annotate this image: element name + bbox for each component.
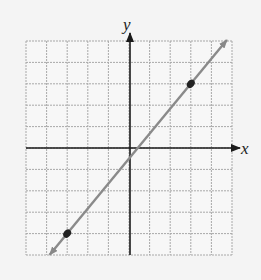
x-axis-label: x <box>240 139 249 158</box>
coordinate-plane: x y <box>0 0 261 280</box>
y-axis-label: y <box>121 15 131 34</box>
